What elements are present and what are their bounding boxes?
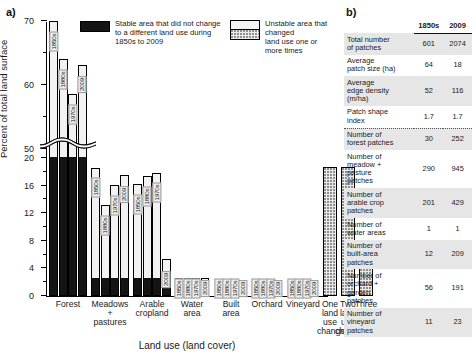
bar-year-label: 2009 [273, 280, 282, 297]
bar-segment-stable [102, 278, 109, 295]
table-cell-label: Number of built-area patches [344, 240, 414, 270]
y-tick-label: 60 [24, 81, 34, 90]
bar [323, 167, 337, 296]
table-cell-1850s: 30 [414, 128, 443, 150]
legend-label-stable: Stable area that did not change to a dif… [115, 20, 221, 47]
bar: 2009 [275, 288, 282, 296]
table-cell-2009: 209 [443, 240, 472, 270]
table-cell-label: Average patch size (ha) [344, 55, 414, 77]
bar: 1880s [101, 205, 110, 296]
table-cell-1850s: 56 [414, 269, 443, 307]
table-cell-label: Patch shape index [344, 106, 414, 128]
bar-group: 1850s1880s1970s2009Built area [215, 21, 247, 296]
bar-segment-stable [79, 157, 86, 295]
table-header-row: 1850s 2009 [344, 22, 472, 33]
bar-year-label: 2009 [161, 271, 170, 288]
y-tick-label: 0 [29, 292, 34, 301]
table-row: Number of forest patches30252 [344, 128, 472, 150]
y-tick-major: 16 [41, 185, 47, 186]
table-cell-label: Number of vineyard patches [344, 308, 414, 338]
bar: 1880s [143, 176, 152, 296]
bar-group: 1850s1880s1970s2009Arable cropland [133, 21, 171, 296]
table-cell-2009: 1.7 [443, 106, 472, 128]
table-cell-label: Number of orchard + garden patches [344, 269, 414, 307]
bar: 2009 [201, 278, 209, 296]
bar: 1850s [91, 168, 100, 296]
y-tick-label: 16 [24, 181, 34, 190]
bar: 1850s [175, 278, 183, 296]
bar-chart: Percent of total land surface Land use (… [0, 0, 336, 361]
bar: 1850s [133, 184, 142, 296]
y-tick-major: 8 [41, 240, 47, 241]
table-row: Total number of patches6012074 [344, 33, 472, 55]
metrics-table: 1850s 2009 Total number of patches601207… [344, 22, 472, 337]
plot-area: 048121620506070 1850s1880s1970s2009Fores… [46, 22, 328, 297]
table-cell-2009: 429 [443, 188, 472, 218]
bar-group: One land use change [323, 21, 337, 296]
bar: 1970s [231, 286, 239, 296]
bar-year-label: 2009 [119, 186, 128, 203]
y-tick-minor [43, 116, 47, 117]
bar-year-label: 1970s [68, 104, 77, 124]
bar-year-label: 2009 [200, 280, 209, 297]
table-cell-1850s: 201 [414, 188, 443, 218]
bar-segment-stable [69, 157, 76, 295]
table-row: Average patch size (ha)6418 [344, 55, 472, 77]
bar-year-label: 2009 [238, 280, 247, 297]
table-cell-2009: 23 [443, 308, 472, 338]
table-row: Average edge density (m/ha)52116 [344, 76, 472, 106]
table-header-2009: 2009 [443, 22, 472, 33]
table-header-1850s: 1850s [414, 22, 443, 33]
table-row: Number of orchard + garden patches56191 [344, 269, 472, 307]
bar: 1880s [223, 288, 231, 296]
bar-year-label: 1970s [152, 183, 161, 203]
y-tick-label: 70 [24, 17, 34, 26]
bar-year-label: 1970s [191, 278, 200, 298]
y-tick-minor [43, 52, 47, 53]
bar-segment-unstable [324, 168, 336, 295]
table-cell-1850s: 52 [414, 76, 443, 106]
y-tick-label: 20 [24, 154, 34, 163]
y-tick-major: 12 [41, 212, 47, 213]
table-cell-1850s: 11 [414, 308, 443, 338]
bar-group: 1850s1880s1970s2009Water area [175, 21, 209, 296]
bar: 1850s [49, 21, 58, 296]
bar-year-label: 1850s [91, 178, 100, 198]
table-row: Number of built-area patches12209 [344, 240, 472, 270]
bar-segment-stable [153, 278, 160, 295]
y-tick-minor [43, 171, 47, 172]
y-tick-label: 4 [29, 264, 34, 273]
bar-group: 1850s1880s1970s2009Vineyard [288, 21, 318, 296]
bar: 2009 [162, 259, 171, 296]
table-cell-label: Number of water areas [344, 218, 414, 240]
x-axis-title: Land use (land cover) [46, 340, 328, 351]
table-cell-2009: 1 [443, 218, 472, 240]
bar-year-label: 1850s [49, 31, 58, 51]
bar: 1970s [152, 173, 161, 297]
table-cell-label: Total number of patches [344, 33, 414, 55]
table-cell-2009: 18 [443, 55, 472, 77]
bar-year-label: 1970s [110, 195, 119, 215]
bar-segment-stable [144, 278, 151, 295]
bar: 2009 [239, 282, 247, 296]
table-row: Number of vineyard patches1123 [344, 308, 472, 338]
table-cell-1850s: 1.7 [414, 106, 443, 128]
bar-segment-stable [50, 157, 57, 295]
y-tick-minor [43, 198, 47, 199]
table-cell-label: Number of meadow + pasture patches [344, 150, 414, 188]
bar-group: 1850s1880s1970s2009Orchard [252, 21, 282, 296]
y-tick-major: 0 [41, 295, 47, 296]
table-cell-2009: 945 [443, 150, 472, 188]
bar-segment-stable [111, 278, 118, 295]
bar-group: 1850s1880s1970s2009Forest [49, 21, 87, 296]
y-tick-major: 70 [41, 20, 47, 21]
table-cell-2009: 116 [443, 76, 472, 106]
table-cell-1850s: 1 [414, 218, 443, 240]
y-tick-major: 4 [41, 267, 47, 268]
bar-segment-stable [60, 157, 67, 295]
bar: 1970s [192, 278, 200, 296]
bar: 1880s [184, 278, 192, 296]
table-cell-1850s: 601 [414, 33, 443, 55]
bar-segment-stable [121, 278, 128, 295]
bar-year-label: 1880s [142, 186, 151, 206]
